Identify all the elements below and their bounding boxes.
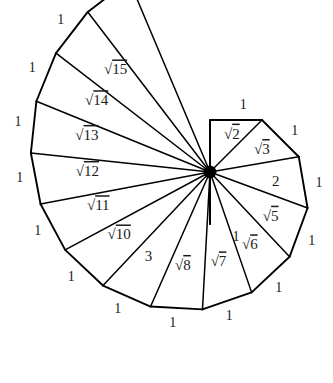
unit-leg-7	[151, 307, 203, 310]
unit-leg-4	[290, 208, 308, 257]
unit-leg-6	[202, 292, 251, 309]
unit-leg-3	[299, 157, 308, 208]
hypotenuse-label-13: √13	[75, 127, 98, 143]
hypotenuse-label-7: √7	[211, 254, 227, 270]
unit-leg-5	[252, 257, 290, 293]
spoke-radius-16	[129, 0, 210, 172]
unit-leg-13	[36, 53, 56, 101]
unit-length-label-14: 1	[57, 12, 64, 27]
unit-leg-15	[88, 0, 129, 12]
spoke-radius-4	[210, 172, 308, 208]
hypotenuse-label-10: √10	[108, 227, 131, 243]
spiral-diagram-canvas: √2√32√5√6√7√83√10√11√12√13√14√15 1111111…	[0, 0, 333, 383]
unit-length-label-11: 1	[16, 170, 23, 185]
unit-length-label-12: 1	[15, 114, 22, 129]
hypotenuse-label-2: √2	[224, 126, 240, 142]
unit-length-label-4: 1	[308, 233, 315, 248]
hypotenuse-label-15: √15	[104, 62, 127, 78]
hypotenuse-label-11: √11	[87, 198, 110, 214]
hypotenuse-label-12: √12	[76, 163, 99, 179]
unit-length-label-7: 1	[169, 315, 176, 330]
center-vertex-hub	[204, 166, 216, 178]
unit-length-label-3: 1	[316, 175, 323, 190]
hypotenuse-label-5: √5	[263, 208, 279, 224]
unit-length-label-base: 1	[233, 229, 240, 244]
hypotenuse-label-6: √6	[242, 237, 258, 253]
unit-length-label-1: 1	[240, 97, 247, 112]
hypotenuse-label-4: 2	[272, 173, 280, 189]
spoke-radius-6	[210, 172, 252, 292]
unit-length-label-10: 1	[34, 223, 41, 238]
spoke-radius-12	[31, 153, 210, 172]
unit-length-label-8: 1	[114, 301, 121, 316]
spiral-of-theodorus-figure: √2√32√5√6√7√83√10√11√12√13√14√15 1111111…	[0, 0, 333, 383]
spoke-radius-8	[151, 172, 210, 307]
unit-length-label-2: 1	[291, 123, 298, 138]
unit-length-label-9: 1	[68, 269, 75, 284]
hypotenuse-label-14: √14	[85, 93, 109, 109]
unit-leg-10	[41, 204, 66, 250]
hypotenuse-label-8: √8	[175, 257, 191, 273]
unit-leg-8	[103, 286, 151, 307]
unit-length-label-6: 1	[226, 308, 233, 323]
unit-length-label-13: 1	[29, 60, 36, 75]
unit-length-label-group: 111111111111111	[15, 12, 323, 329]
unit-leg-11	[31, 153, 41, 204]
hypotenuse-label-3: √3	[254, 141, 270, 157]
unit-leg-12	[31, 101, 36, 153]
unit-length-label-5: 1	[275, 280, 282, 295]
spoke-radius-7	[202, 172, 210, 309]
hypotenuse-label-9: 3	[145, 248, 153, 264]
